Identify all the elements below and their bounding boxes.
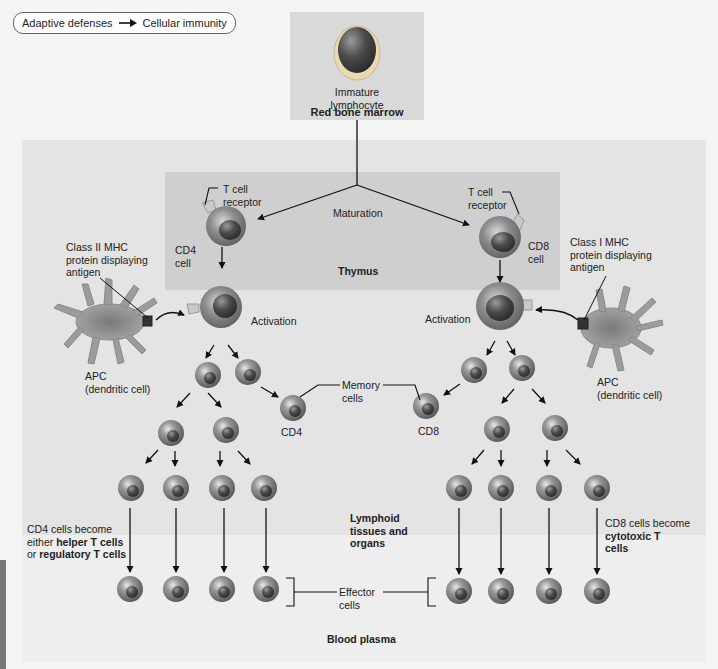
label-line: antigen [66,266,148,279]
memory-cd4-label: CD4 [281,426,302,439]
regulatory-t-cells-term: regulatory T cells [39,548,126,560]
memory-cd8-label: CD8 [418,425,439,438]
label-line: CD4 cells become [27,523,126,536]
immature-lymphocyte-cell [334,26,380,80]
activation-left-label: Activation [251,315,297,328]
t-cell-receptor-left-label: T cell receptor [223,183,262,208]
label-line: organs [350,537,408,550]
label-line: APC [597,376,662,389]
cd4-lineage-cells [117,359,306,602]
activation-right-label: Activation [425,313,471,326]
label-line: Class I MHC [570,236,652,249]
apc-left-label: APC (dendritic cell) [85,370,150,395]
label-text: or [27,548,39,560]
cd8-cell [479,214,524,258]
thymus-label: Thymus [338,265,378,278]
label-line: cell [175,257,196,270]
label-line: T cell [223,183,262,196]
label-line: (dendritic cell) [85,383,150,396]
label-line: Memory [342,379,380,392]
label-line: either helper T cells [27,536,126,549]
t-cell-receptor-right-label: T cell receptor [468,186,507,211]
lymphoid-tissues-label: Lymphoid tissues and organs [350,512,408,550]
label-line: receptor [468,199,507,212]
cd8-cell-label: CD8 cell [528,240,549,265]
label-line: cells [342,392,380,405]
label-line: Immature [317,86,397,99]
label-line: receptor [223,196,262,209]
label-line: Lymphoid [350,512,408,525]
label-line: protein displaying [570,249,652,262]
label-line: protein displaying [66,254,148,267]
label-line: tissues and [350,525,408,538]
activated-cd8-cell [476,282,532,330]
activated-cd4-cell [187,286,242,328]
label-line: APC [85,370,150,383]
cd4-fate-label: CD4 cells become either helper T cells o… [27,523,126,561]
cytotoxic-t-cells-term: cytotoxic T [605,530,690,543]
label-line: cells [605,542,690,555]
label-line: T cell [468,186,507,199]
label-line: cell [528,253,549,266]
cd4-cell-label: CD4 cell [175,244,196,269]
blood-plasma-label: Blood plasma [327,633,396,646]
class-ii-mhc-label: Class II MHC protein displaying antigen [66,241,148,279]
label-line: or regulatory T cells [27,548,126,561]
label-line: CD8 [528,240,549,253]
apc-right-label: APC (dendritic cell) [597,376,662,401]
apc-left-dendritic-cell [54,278,157,364]
class-i-mhc-label: Class I MHC protein displaying antigen [570,236,652,274]
red-bone-marrow-label: Red bone marrow [297,106,417,119]
label-line: CD4 [175,244,196,257]
cd8-fate-label: CD8 cells become cytotoxic T cells [605,517,690,555]
label-line: CD8 cells become [605,517,690,530]
label-line: Class II MHC [66,241,148,254]
maturation-label: Maturation [333,207,383,220]
label-line: antigen [570,261,652,274]
label-text: either [27,536,56,548]
memory-cells-label: Memory cells [342,379,380,404]
helper-t-cells-term: helper T cells [56,536,123,548]
apc-right-dendritic-cell [578,286,663,371]
label-line: (dendritic cell) [597,389,662,402]
label-line: cells [339,599,375,612]
effector-cells-label: Effector cells [339,586,375,611]
label-line: Effector [339,586,375,599]
